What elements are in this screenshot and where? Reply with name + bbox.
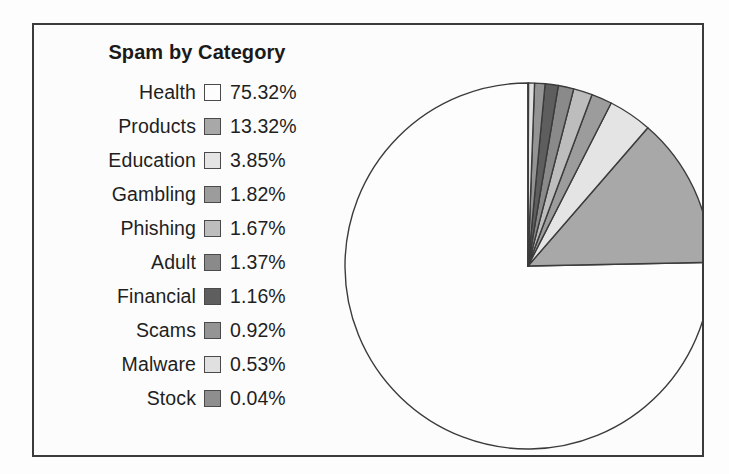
legend-item-value: 75.32% xyxy=(221,81,297,104)
legend-item[interactable]: Adult1.37% xyxy=(48,245,338,279)
legend-swatch-icon xyxy=(204,220,221,237)
legend-swatch-icon xyxy=(204,322,221,339)
legend-item-value: 1.37% xyxy=(221,251,286,274)
legend-item-label: Adult xyxy=(48,251,204,274)
legend-swatch-icon xyxy=(204,288,221,305)
legend-item-label: Products xyxy=(48,115,204,138)
legend-item-value: 0.53% xyxy=(221,353,286,376)
legend-rows: Health75.32%Products13.32%Education3.85%… xyxy=(48,75,338,415)
legend-swatch-icon xyxy=(204,356,221,373)
legend-item-value: 3.85% xyxy=(221,149,286,172)
legend-item-label: Gambling xyxy=(48,183,204,206)
figure-root: Spam by Category Health75.32%Products13.… xyxy=(0,0,729,474)
legend-item[interactable]: Malware0.53% xyxy=(48,347,338,381)
legend-item-label: Scams xyxy=(48,319,204,342)
legend-item[interactable]: Scams0.92% xyxy=(48,313,338,347)
legend-swatch-icon xyxy=(204,118,221,135)
legend-swatch-icon xyxy=(204,254,221,271)
legend-item[interactable]: Health75.32% xyxy=(48,75,338,109)
legend-item-label: Education xyxy=(48,149,204,172)
legend-item-value: 1.16% xyxy=(221,285,286,308)
legend-item[interactable]: Financial1.16% xyxy=(48,279,338,313)
legend-item-label: Financial xyxy=(48,285,204,308)
legend-swatch-icon xyxy=(204,84,221,101)
pie-svg xyxy=(312,23,702,457)
legend-item[interactable]: Stock0.04% xyxy=(48,381,338,415)
pie-slices xyxy=(345,83,702,449)
legend-item[interactable]: Gambling1.82% xyxy=(48,177,338,211)
legend-item-value: 0.92% xyxy=(221,319,286,342)
legend-title: Spam by Category xyxy=(48,41,338,64)
legend-swatch-icon xyxy=(204,152,221,169)
legend-item[interactable]: Education3.85% xyxy=(48,143,338,177)
legend: Spam by Category Health75.32%Products13.… xyxy=(48,41,338,415)
legend-item[interactable]: Products13.32% xyxy=(48,109,338,143)
legend-item-label: Phishing xyxy=(48,217,204,240)
legend-item-value: 0.04% xyxy=(221,387,286,410)
legend-item[interactable]: Phishing1.67% xyxy=(48,211,338,245)
legend-item-label: Health xyxy=(48,81,204,104)
legend-item-value: 1.82% xyxy=(221,183,286,206)
legend-item-value: 13.32% xyxy=(221,115,297,138)
legend-item-value: 1.67% xyxy=(221,217,286,240)
legend-swatch-icon xyxy=(204,186,221,203)
legend-item-label: Malware xyxy=(48,353,204,376)
legend-swatch-icon xyxy=(204,390,221,407)
chart-frame: Spam by Category Health75.32%Products13.… xyxy=(32,23,704,457)
legend-item-label: Stock xyxy=(48,387,204,410)
pie-chart xyxy=(312,23,702,457)
